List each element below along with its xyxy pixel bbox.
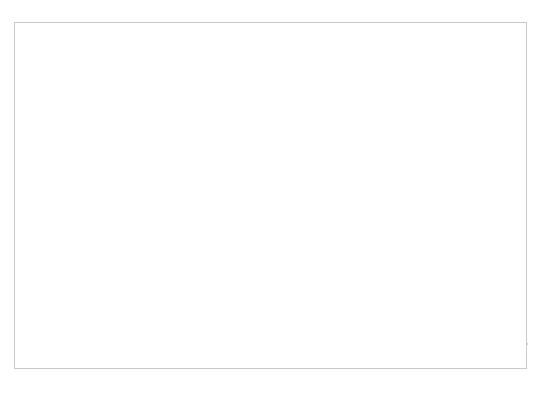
chart-frame bbox=[14, 22, 527, 369]
chart-container: 00.0050.010.0150.020.0250.030.0351980198… bbox=[0, 0, 558, 397]
